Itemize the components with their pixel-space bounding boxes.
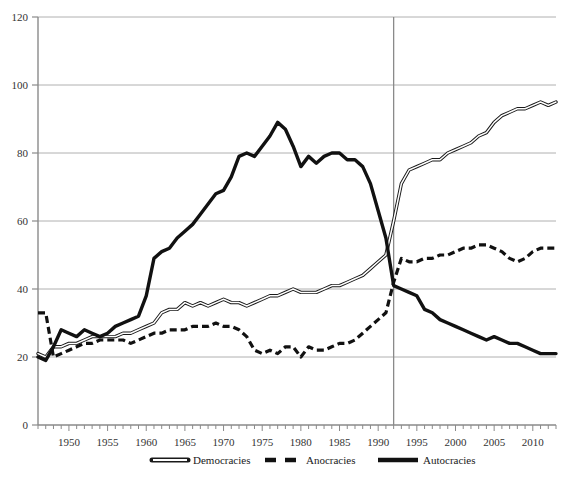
x-tick-label: 2005 [483, 436, 506, 448]
gridlines [38, 17, 556, 357]
series-line-inner [38, 102, 556, 357]
legend-item-anocracies: Anocracies [265, 454, 355, 466]
series-line-solid [38, 122, 556, 360]
y-tick-label: 60 [17, 215, 29, 227]
legend-label: Autocracies [423, 454, 476, 466]
legend-label: Anocracies [306, 454, 355, 466]
x-tick-label: 1995 [406, 436, 429, 448]
data-series [38, 102, 556, 360]
y-tick-label: 80 [17, 147, 29, 159]
y-tick-label: 20 [17, 351, 29, 363]
legend-label: Democracies [193, 454, 250, 466]
y-tick-label: 120 [12, 11, 29, 23]
x-tick-label: 1985 [329, 436, 352, 448]
x-tick-label: 1990 [367, 436, 390, 448]
x-tick-label: 2010 [522, 436, 545, 448]
series-democracies [38, 102, 556, 357]
chart-legend: DemocraciesAnocraciesAutocracies [152, 454, 476, 466]
y-tick-label: 40 [17, 283, 29, 295]
series-line-outer [38, 102, 556, 357]
series-autocracies [38, 122, 556, 360]
regime-types-line-chart: 020406080100120 195019551960196519701975… [0, 0, 567, 477]
x-tick-label: 1960 [135, 436, 158, 448]
y-axis: 020406080100120 [12, 11, 39, 431]
x-tick-label: 1950 [58, 436, 81, 448]
x-tick-label: 1980 [290, 436, 313, 448]
x-tick-label: 1975 [251, 436, 274, 448]
y-tick-label: 100 [12, 79, 29, 91]
x-tick-label: 2000 [444, 436, 467, 448]
chart-canvas: 020406080100120 195019551960196519701975… [0, 0, 567, 477]
x-axis: 1950195519601965197019751980198519901995… [38, 425, 556, 448]
legend-item-autocracies: Autocracies [378, 454, 476, 466]
legend-item-democracies: Democracies [152, 454, 250, 466]
y-tick-label: 0 [23, 419, 29, 431]
x-tick-label: 1955 [97, 436, 120, 448]
x-tick-label: 1970 [213, 436, 236, 448]
series-anocracies [38, 245, 556, 357]
series-line-dashed [38, 245, 556, 357]
x-tick-label: 1965 [174, 436, 197, 448]
